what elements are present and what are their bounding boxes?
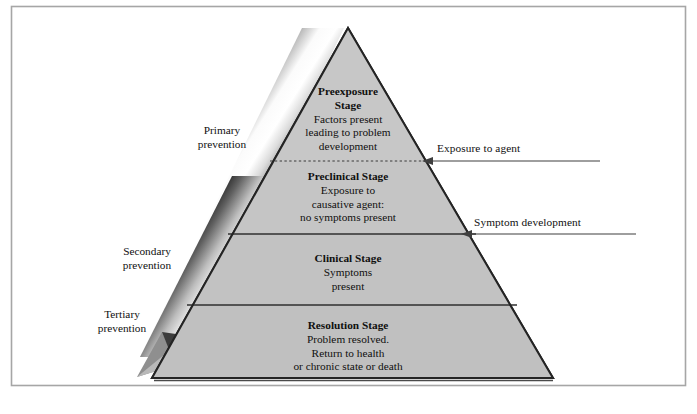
level-body-resolution-line1: Problem resolved. [248, 333, 448, 347]
level-body-preexposure-line3: development [268, 140, 428, 154]
label-exposure-to-agent: Exposure to agent [437, 142, 520, 155]
level-title-preexposure-line1: Preexposure [268, 85, 428, 99]
level-text-clinical: Clinical Stage Symptoms present [268, 252, 428, 293]
level-text-resolution: Resolution Stage Problem resolved. Retur… [248, 319, 448, 374]
level-text-preexposure: Preexposure Stage Factors present leadin… [268, 85, 428, 154]
level-title-clinical: Clinical Stage [268, 252, 428, 266]
label-primary-prevention-line2: prevention [176, 138, 268, 152]
level-title-preexposure-line2: Stage [268, 99, 428, 113]
label-secondary-prevention: Secondary prevention [95, 245, 199, 273]
level-body-resolution-line2: Return to health [248, 347, 448, 361]
level-body-clinical-line2: present [268, 280, 428, 294]
level-body-resolution-line3: or chronic state or death [248, 360, 448, 374]
label-primary-prevention-line1: Primary [176, 124, 268, 138]
label-secondary-prevention-line1: Secondary [95, 245, 199, 259]
level-body-preclinical-line1: Exposure to [258, 184, 438, 198]
level-title-resolution: Resolution Stage [248, 319, 448, 333]
label-tertiary-prevention-line1: Tertiary [72, 308, 172, 322]
label-primary-prevention: Primary prevention [176, 124, 268, 152]
level-body-preexposure-line2: leading to problem [268, 126, 428, 140]
level-body-preclinical-line3: no symptoms present [258, 211, 438, 225]
label-secondary-prevention-line2: prevention [95, 259, 199, 273]
level-body-preclinical-line2: causative agent: [258, 198, 438, 212]
label-tertiary-prevention: Tertiary prevention [72, 308, 172, 336]
level-title-preclinical: Preclinical Stage [258, 170, 438, 184]
level-body-clinical-line1: Symptoms [268, 266, 428, 280]
figure-root: Preexposure Stage Factors present leadin… [0, 0, 697, 414]
level-body-preexposure-line1: Factors present [268, 113, 428, 127]
label-tertiary-prevention-line2: prevention [72, 322, 172, 336]
label-symptom-development: Symptom development [474, 216, 581, 229]
level-text-preclinical: Preclinical Stage Exposure to causative … [258, 170, 438, 225]
